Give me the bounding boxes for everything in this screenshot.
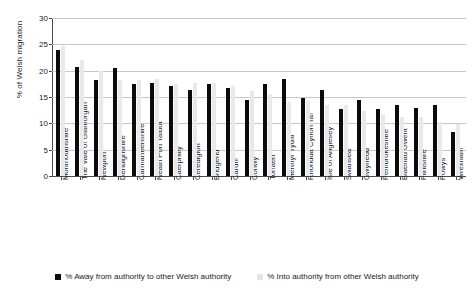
x-axis-label-cell: Pembrokeshire xyxy=(372,180,391,262)
bar-into xyxy=(212,83,216,176)
bar-into xyxy=(174,84,178,176)
x-axis-label-cell: Denbighshire xyxy=(108,180,127,262)
x-axis-label-cell: Carmarthenshire xyxy=(127,180,146,262)
bar-into xyxy=(325,105,329,176)
x-axis-label-cell: Bridgend xyxy=(203,180,222,262)
bar-series-layer xyxy=(52,18,466,176)
x-axis-label-cell: Cardiff xyxy=(221,180,240,262)
bar-away xyxy=(433,105,437,176)
bar-away xyxy=(113,68,117,176)
bar-into xyxy=(362,111,366,176)
y-axis-tick-label: 20 xyxy=(39,66,48,75)
bar-into xyxy=(419,117,423,176)
bar-into xyxy=(287,102,291,176)
bar-into xyxy=(400,117,404,177)
x-axis-label-cell: Ceredigion xyxy=(184,180,203,262)
x-axis-labels: MonmouthshireThe Vale of GlamorganNewpor… xyxy=(52,180,466,262)
bar-into xyxy=(438,122,442,176)
x-axis-label-cell: Rhondda Cynon Taf xyxy=(297,180,316,262)
chart-legend: % Away from authority to other Welsh aut… xyxy=(0,272,474,281)
y-axis-tick-label: 30 xyxy=(39,14,48,23)
legend-label-away: % Away from authority to other Welsh aut… xyxy=(65,272,231,281)
y-axis-tick-label: 0 xyxy=(44,172,48,181)
x-axis-label-cell: Torfaen xyxy=(259,180,278,262)
legend-item-into: % Into authority from other Welsh author… xyxy=(257,272,418,281)
bar-away xyxy=(75,67,79,176)
bar-away xyxy=(339,109,343,176)
bar-away xyxy=(94,80,98,176)
x-axis-label-cell: Flintshire xyxy=(409,180,428,262)
y-axis-tick-label: 25 xyxy=(39,40,48,49)
x-axis-label-cell: Newport xyxy=(90,180,109,262)
x-axis-label-cell: Powys xyxy=(428,180,447,262)
x-axis-label-cell: Blaenau Gwent xyxy=(391,180,410,262)
bar-into xyxy=(456,124,460,176)
bar-away xyxy=(414,108,418,176)
y-axis-tick-label: 15 xyxy=(39,93,48,102)
bar-into xyxy=(80,60,84,176)
bar-away xyxy=(301,98,305,176)
x-axis-label-cell: Wrexham xyxy=(447,180,466,262)
bar-away xyxy=(263,84,267,176)
bar-away xyxy=(132,84,136,176)
bar-into xyxy=(250,91,254,176)
y-axis-tick-label: 5 xyxy=(44,145,48,154)
legend-label-into: % Into authority from other Welsh author… xyxy=(267,272,418,281)
x-axis-label-cell: Merthyr Tydfil xyxy=(278,180,297,262)
bar-into xyxy=(99,71,103,176)
x-axis-label-cell: Isle of Anglesey xyxy=(315,180,334,262)
bar-into xyxy=(344,105,348,176)
plot-area: 051015202530 xyxy=(52,18,466,176)
bar-group xyxy=(240,18,259,176)
bar-into xyxy=(118,80,122,176)
x-axis-label-cell: Gwynedd xyxy=(353,180,372,262)
x-axis-label-cell: Swansea xyxy=(334,180,353,262)
y-axis-title: % of Welsh migration xyxy=(15,0,24,125)
bar-group xyxy=(259,18,278,176)
bar-away xyxy=(357,100,361,176)
bar-away xyxy=(320,90,324,176)
bar-into xyxy=(137,80,141,176)
migration-bar-chart: % of Welsh migration 051015202530 Monmou… xyxy=(0,0,474,299)
bar-group xyxy=(428,18,447,176)
legend-swatch-into-icon xyxy=(257,274,263,280)
x-axis-label-cell: The Vale of Glamorgan xyxy=(71,180,90,262)
bar-away xyxy=(150,83,154,176)
y-axis-tick-label: 10 xyxy=(39,119,48,128)
bar-away xyxy=(207,84,211,176)
bar-into xyxy=(61,46,65,176)
bar-away xyxy=(451,132,455,176)
x-axis-label-cell: Caerphilly xyxy=(165,180,184,262)
bar-group xyxy=(221,18,240,176)
legend-item-away: % Away from authority to other Welsh aut… xyxy=(55,272,231,281)
bar-away xyxy=(56,50,60,176)
bar-into xyxy=(268,94,272,176)
bar-into xyxy=(306,101,310,176)
legend-swatch-away-icon xyxy=(55,274,61,280)
bar-away xyxy=(282,79,286,176)
bar-away xyxy=(245,100,249,176)
bar-into xyxy=(155,79,159,176)
x-axis-label-cell: Conwy xyxy=(240,180,259,262)
x-axis-label-cell: Neath Port Talbot xyxy=(146,180,165,262)
x-axis-label-cell: Monmouthshire xyxy=(52,180,71,262)
bar-away xyxy=(395,105,399,176)
bar-into xyxy=(381,114,385,176)
bar-away xyxy=(188,90,192,176)
bar-away xyxy=(226,88,230,176)
bar-into xyxy=(193,83,197,176)
bar-away xyxy=(169,86,173,176)
bar-away xyxy=(376,109,380,176)
bar-into xyxy=(231,86,235,176)
